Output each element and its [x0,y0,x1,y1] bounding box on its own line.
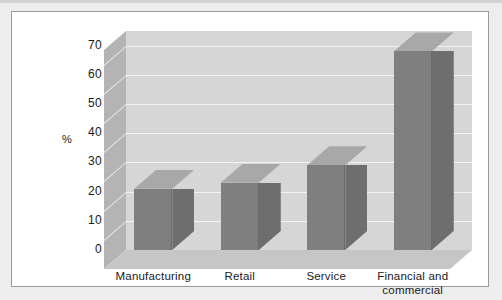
bar-front-face [307,165,345,250]
plot-floor [104,250,472,269]
page-top-edge [0,0,502,3]
x-axis-tick-label: Financial andcommercial [358,269,468,297]
y-axis-title: % [62,133,72,145]
x-axis-tick-label-line: commercial [358,283,468,297]
x-axis-tick-label-line: Financial and [358,269,468,283]
bar [134,170,172,250]
page: % 010203040506070 ManufacturingRetailSer… [0,0,502,300]
chart-frame: % 010203040506070 ManufacturingRetailSer… [11,11,489,287]
bar [394,32,432,250]
bar-front-face [221,183,259,250]
bar-side-face [432,51,454,250]
y-axis-tick-label: 0 [76,242,102,256]
bar [307,146,345,250]
y-axis-tick-label: 10 [76,213,102,227]
y-axis-tick-label: 50 [76,96,102,110]
bar-front-face [134,189,172,250]
y-axis-tick-label: 60 [76,67,102,81]
bar [221,164,259,250]
x-axis-tick-labels: ManufacturingRetailServiceFinancial andc… [104,269,472,300]
y-axis-tick-label: 40 [76,125,102,139]
y-axis-tick-label: 70 [76,38,102,52]
bar-chart: % 010203040506070 ManufacturingRetailSer… [12,12,488,286]
y-axis-tick-labels: 010203040506070 [72,12,102,286]
plot-area [104,31,472,269]
bar-front-face [394,51,432,250]
y-axis-tick-label: 30 [76,154,102,168]
y-axis-tick-label: 20 [76,184,102,198]
